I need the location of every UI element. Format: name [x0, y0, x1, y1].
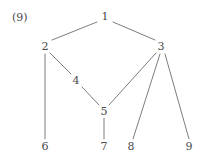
graph-node-8: 8	[128, 141, 135, 152]
graph-node-3: 3	[158, 41, 165, 52]
graph-node-9: 9	[186, 141, 193, 152]
edges-group	[45, 22, 189, 139]
edge-3-9	[165, 54, 189, 139]
edge-2-4	[50, 53, 71, 74]
graph-edges-layer	[0, 0, 206, 158]
edge-1-2	[52, 22, 97, 40]
edge-3-8	[133, 54, 160, 139]
graph-node-1: 1	[102, 11, 109, 22]
graph-node-7: 7	[101, 141, 108, 152]
figure-index-label: (9)	[12, 12, 28, 23]
graph-node-2: 2	[42, 41, 49, 52]
graph-node-5: 5	[101, 106, 108, 117]
graph-figure: 123456789 (9)	[0, 0, 206, 158]
graph-node-6: 6	[42, 141, 49, 152]
edge-1-3	[113, 22, 155, 40]
edge-3-5	[109, 53, 156, 105]
edge-4-5	[82, 87, 99, 105]
graph-node-4: 4	[73, 75, 80, 86]
